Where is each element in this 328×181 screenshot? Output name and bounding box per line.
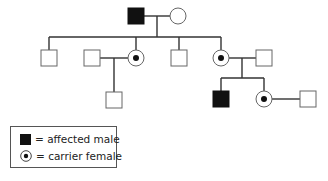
legend-label: = affected male — [35, 133, 120, 145]
dotted-circle-icon — [20, 150, 32, 162]
affected-male-III-2 — [213, 91, 229, 107]
legend-item-carrier-female: = carrier female — [20, 150, 122, 162]
legend: = affected male = carrier female — [10, 126, 117, 168]
filled-square-icon — [20, 134, 31, 145]
carrier-female-II-2 — [128, 50, 144, 66]
legend-item-affected-male: = affected male — [20, 133, 120, 145]
unaffected-male-II-1 — [41, 50, 57, 66]
unaffected-female-I-2 — [170, 8, 186, 24]
unaffected-male-III-3-spouse — [300, 91, 316, 107]
unaffected-male-II-3 — [171, 50, 187, 66]
affected-male-I-1 — [128, 8, 144, 24]
unaffected-male-II-2-spouse — [84, 50, 100, 66]
legend-label: = carrier female — [36, 150, 122, 162]
carrier-female-II-4 — [213, 50, 229, 66]
carrier-female-III-3 — [256, 91, 272, 107]
unaffected-male-III-1 — [106, 92, 122, 108]
unaffected-male-II-4-spouse — [256, 50, 272, 66]
